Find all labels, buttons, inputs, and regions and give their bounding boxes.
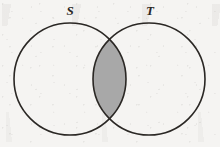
venn-diagram-figure: S T: [0, 0, 220, 147]
set-label-t: T: [146, 4, 154, 17]
venn-canvas: [0, 0, 220, 147]
set-label-s: S: [66, 4, 73, 17]
